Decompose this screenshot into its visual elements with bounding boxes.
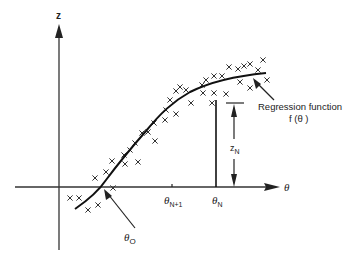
data-point-cross-icon — [211, 73, 216, 78]
regression-arrow-icon — [253, 78, 261, 89]
data-point-cross-icon — [183, 87, 188, 92]
data-point-cross-icon — [226, 64, 231, 69]
z-n-up-arrow-icon — [231, 104, 237, 117]
z-axis: z — [55, 10, 63, 250]
data-point-cross-icon — [235, 66, 240, 71]
theta-n-subscript: N — [217, 201, 222, 208]
data-point-cross-icon — [109, 158, 114, 163]
data-point-cross-icon — [260, 57, 265, 62]
data-point-cross-icon — [177, 84, 182, 89]
tick-theta-n: θN — [212, 100, 222, 208]
z-axis-label: z — [56, 10, 61, 21]
z-axis-arrow-icon — [55, 24, 63, 38]
data-point-cross-icon — [167, 97, 172, 102]
data-point-cross-icon — [76, 195, 81, 200]
svg-text:θN+1: θN+1 — [164, 194, 183, 208]
data-point-cross-icon — [247, 61, 252, 66]
data-point-cross-icon — [152, 138, 157, 143]
svg-text:zN: zN — [230, 143, 240, 155]
theta-axis: θ — [15, 181, 290, 193]
data-point-cross-icon — [173, 111, 178, 116]
data-point-cross-icon — [122, 161, 127, 166]
data-point-cross-icon — [92, 175, 97, 180]
data-point-cross-icon — [247, 85, 252, 90]
svg-text:θO: θO — [124, 231, 136, 246]
data-point-cross-icon — [110, 185, 115, 190]
data-point-cross-icon — [211, 90, 216, 95]
theta-axis-label: θ — [284, 181, 290, 193]
data-point-cross-icon — [255, 67, 260, 72]
data-point-cross-icon — [241, 63, 246, 68]
data-point-cross-icon — [219, 73, 224, 78]
data-point-cross-icon — [203, 77, 208, 82]
theta-n-plus-1-subscript: N+1 — [169, 201, 182, 208]
data-point-cross-icon — [223, 91, 228, 96]
data-point-cross-icon — [237, 79, 242, 84]
theta-axis-arrow-icon — [264, 183, 280, 191]
z-n-dimension: zN — [226, 103, 244, 187]
regression-formula: f (θ ) — [289, 113, 309, 124]
data-point-cross-icon — [67, 195, 72, 200]
theta-o-subscript: O — [129, 237, 135, 246]
svg-text:θN: θN — [212, 194, 222, 208]
data-point-cross-icon — [85, 207, 90, 212]
data-point-cross-icon — [209, 100, 214, 105]
z-n-down-arrow-icon — [231, 174, 237, 187]
regression-annotation: Regression function f (θ ) — [253, 78, 342, 124]
data-point-cross-icon — [200, 90, 205, 95]
data-point-cross-icon — [188, 100, 193, 105]
regression-label: Regression function — [258, 101, 342, 112]
data-point-cross-icon — [103, 169, 108, 174]
data-point-cross-icon — [95, 202, 100, 207]
data-point-cross-icon — [264, 77, 269, 82]
regression-diagram: z θ θN+1 θN zN θO — [0, 0, 354, 258]
theta-o-annotation: θO — [104, 189, 136, 246]
z-n-subscript: N — [235, 148, 240, 155]
regression-curve — [75, 73, 266, 209]
data-point-cross-icon — [162, 117, 167, 122]
data-point-cross-icon — [135, 159, 140, 164]
